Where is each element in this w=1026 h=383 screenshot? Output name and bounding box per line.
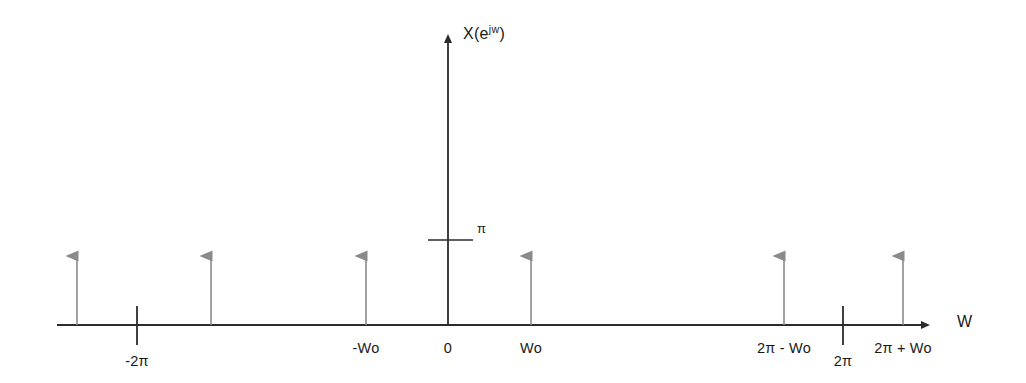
- y-axis-title: X(ejw): [463, 26, 505, 42]
- tick-label-two-pi-plus-w0: 2π + Wo: [874, 341, 931, 356]
- dtft-spectrum-figure: X(ejw) W π -2π -Wo 0 Wo 2π - Wo 2π 2π + …: [0, 0, 1026, 383]
- tick-label-minus-w0: -Wo: [353, 341, 380, 356]
- plot-canvas: [0, 0, 1026, 383]
- x-axis-title: W: [957, 314, 972, 330]
- tick-label-two-pi-minus-w0: 2π - Wo: [757, 341, 811, 356]
- impulse-train: [77, 256, 903, 325]
- y-axis-title-exponent: jw: [489, 23, 500, 35]
- tick-label-w0: Wo: [520, 341, 542, 356]
- tick-label-zero: 0: [444, 341, 452, 356]
- y-axis-title-base: X(e: [463, 25, 489, 42]
- y-axis-title-close: ): [499, 25, 505, 42]
- tick-label-two-pi: 2π: [834, 354, 852, 369]
- tick-label-minus-two-pi: -2π: [125, 354, 149, 369]
- amplitude-label: π: [477, 222, 486, 235]
